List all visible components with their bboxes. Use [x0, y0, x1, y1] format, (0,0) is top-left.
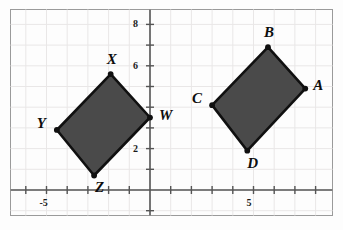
vertex-label-d: D	[247, 156, 258, 171]
y-tick-label: 8	[133, 18, 138, 29]
vertex-dot-w	[147, 115, 153, 121]
vertex-label-z: Z	[95, 180, 104, 195]
vertex-label-a: A	[313, 78, 323, 93]
vertex-label-x: X	[107, 52, 117, 67]
x-tick-label: 5	[247, 197, 252, 208]
vertex-dot-z	[91, 173, 97, 179]
vertex-dot-b	[265, 44, 271, 50]
y-tick-label: 2	[133, 143, 138, 154]
y-tick-label: 6	[133, 60, 138, 71]
vertex-label-w: W	[159, 108, 172, 123]
vertex-dot-c	[209, 102, 215, 108]
figure-canvas: WXYZABCD -55862	[0, 0, 343, 230]
vertex-dot-x	[108, 71, 114, 77]
vertex-dot-d	[244, 148, 250, 154]
vertex-dot-y	[54, 127, 60, 133]
vertex-label-b: B	[264, 25, 274, 40]
vertex-dot-a	[302, 86, 308, 92]
vertex-label-y: Y	[37, 116, 46, 131]
vertex-label-c: C	[192, 91, 202, 106]
x-tick-label: -5	[40, 197, 48, 208]
